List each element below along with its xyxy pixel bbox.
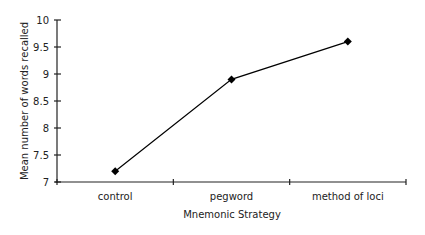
y-tick-label: 9 [43, 69, 49, 80]
x-axis-label: Mnemonic Strategy [183, 209, 281, 220]
y-axis: 77.588.599.510 [33, 15, 61, 188]
diamond-marker [344, 38, 352, 46]
x-axis: controlpegwordmethod of loci [55, 179, 406, 202]
y-axis-label: Mean number of words recalled [19, 22, 30, 180]
x-tick-label: pegword [210, 191, 253, 202]
y-tick-label: 8.5 [33, 96, 49, 107]
y-tick-label: 8 [43, 123, 49, 134]
x-tick-label: method of loci [312, 191, 384, 202]
y-tick-label: 10 [36, 15, 49, 26]
y-tick-label: 9.5 [33, 42, 49, 53]
line-chart: 77.588.599.510 controlpegwordmethod of l… [0, 0, 425, 235]
y-tick-label: 7.5 [33, 150, 49, 161]
x-tick-label: control [98, 191, 133, 202]
y-tick-label: 7 [43, 177, 49, 188]
series-line [115, 42, 348, 172]
data-series [111, 38, 352, 176]
